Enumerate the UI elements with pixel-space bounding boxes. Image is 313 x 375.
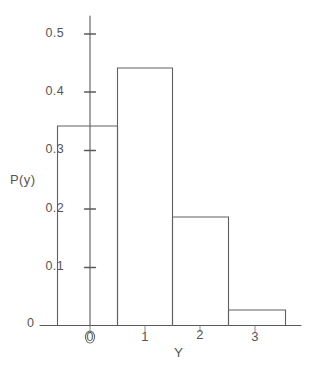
- y-tick-label-0.2: 0.2: [18, 201, 64, 215]
- x-tick-label-2: 2: [186, 327, 214, 342]
- y-tick-label-0.4: 0.4: [18, 84, 64, 98]
- chart-canvas: [0, 0, 313, 375]
- bar-1: [118, 68, 173, 326]
- x-tick-label-3: 3: [241, 329, 269, 344]
- y-origin-label: 0: [27, 316, 34, 330]
- y-axis-title: P(y): [10, 172, 35, 187]
- y-tick-label-0.1: 0.1: [18, 259, 64, 273]
- y-tick-label-0.3: 0.3: [18, 142, 64, 156]
- x-axis-title: Y: [174, 345, 183, 360]
- bar-0: [58, 126, 118, 326]
- bar-2: [173, 217, 229, 326]
- bar-3: [229, 310, 286, 326]
- x-tick-label-0: 0: [76, 329, 104, 344]
- y-tick-label-0.5: 0.5: [18, 26, 64, 40]
- x-tick-label-1: 1: [131, 329, 159, 344]
- histogram-chart: 0.5 0.4 0.3 0.2 0.1 0 P(y) 0 1 2 3 Y: [0, 0, 313, 375]
